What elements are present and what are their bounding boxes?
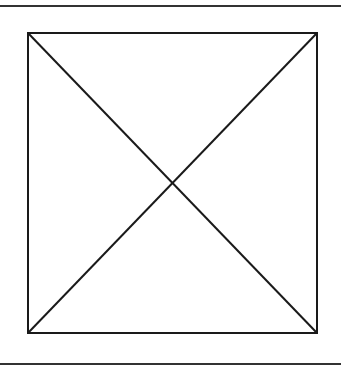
image-placeholder bbox=[0, 0, 341, 367]
bottom-rule bbox=[0, 363, 341, 365]
